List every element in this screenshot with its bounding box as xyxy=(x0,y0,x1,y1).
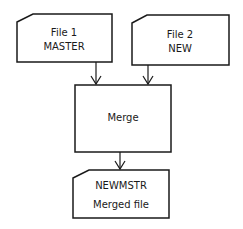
edge-merge-newmstr xyxy=(115,152,125,169)
edge-file2-merge xyxy=(143,65,153,84)
node-merge: Merge xyxy=(75,85,171,152)
node-file1: File 1 MASTER xyxy=(17,14,112,62)
file2-subtitle: NEW xyxy=(168,43,192,54)
merge-label: Merge xyxy=(107,112,138,123)
edge-file1-merge xyxy=(91,62,101,84)
file1-subtitle: MASTER xyxy=(43,41,84,52)
file2-title: File 2 xyxy=(167,29,193,40)
node-newmstr: NEWMSTR Merged file xyxy=(73,170,169,218)
newmstr-subtitle: Merged file xyxy=(93,199,149,210)
card-shape-file1 xyxy=(17,14,112,62)
node-file2: File 2 NEW xyxy=(132,15,229,65)
file1-title: File 1 xyxy=(51,27,77,38)
card-shape-newmstr xyxy=(73,170,169,218)
newmstr-title: NEWMSTR xyxy=(95,180,147,191)
card-shape-file2 xyxy=(132,15,229,65)
merge-flowchart: File 1 MASTER File 2 NEW Merge NEWMSTR M… xyxy=(0,0,243,229)
